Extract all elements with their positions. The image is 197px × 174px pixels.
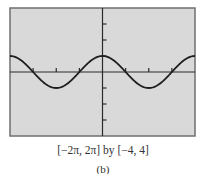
figure-sublabel: (b)	[0, 163, 197, 174]
window-caption: [−2π, 2π] by [−4, 4]	[0, 144, 197, 156]
